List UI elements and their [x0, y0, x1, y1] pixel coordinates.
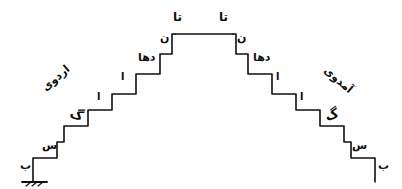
step-label-L5: ا — [121, 72, 124, 82]
diagram-canvas: اردوی آمدوی ب س گ ا ا دها ن تا تا ن دها … — [0, 0, 402, 189]
step-label-R1: ب — [378, 160, 389, 171]
step-label-R6: دها — [253, 52, 270, 63]
staircase-drawing — [0, 0, 402, 189]
step-label-L7: ن — [160, 32, 169, 43]
step-label-L2: س — [42, 140, 57, 151]
step-label-L4: ا — [97, 92, 100, 102]
step-label-R8: تا — [219, 11, 228, 23]
step-label-L6: دها — [138, 52, 155, 63]
step-label-R2: س — [352, 140, 367, 151]
step-label-R7: ن — [237, 32, 246, 43]
step-label-R4: ا — [300, 92, 303, 102]
step-label-L1: ب — [20, 160, 31, 171]
step-label-R5: ا — [276, 72, 279, 82]
ground-hatch-icon — [22, 182, 47, 186]
step-label-L8: تا — [173, 11, 182, 23]
